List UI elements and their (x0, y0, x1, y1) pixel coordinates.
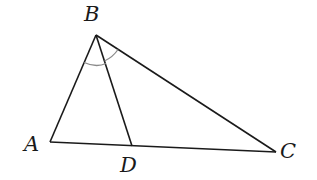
segment-bd (96, 35, 132, 146)
geometry-figure (0, 0, 317, 180)
angle-arc-abd (84, 63, 106, 66)
segment-ac (50, 142, 276, 152)
angle-arc-dbc (105, 50, 119, 62)
point-label-c: C (280, 141, 296, 162)
segment-ab (50, 35, 96, 142)
triangle-diagram: B A D C (0, 0, 317, 180)
segment-bc (96, 35, 276, 152)
point-label-d: D (120, 155, 137, 176)
point-label-b: B (84, 4, 99, 25)
point-label-a: A (24, 134, 39, 155)
